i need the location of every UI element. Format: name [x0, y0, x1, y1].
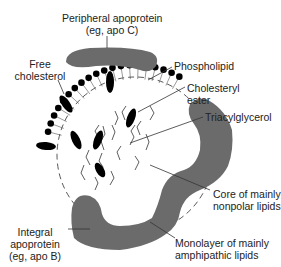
- label-free-cholesterol: Free cholesterol: [10, 58, 70, 82]
- label-line: (eg, apo B): [2, 250, 68, 262]
- label-line: Peripheral apoprotein: [62, 12, 162, 24]
- label-line: (eg, apo C): [62, 24, 162, 36]
- label-line: ester: [187, 94, 240, 106]
- label-core: Core of mainly nonpolar lipids: [213, 188, 281, 212]
- label-phospholipid: Phospholipid: [174, 60, 234, 72]
- label-triacylglycerol: Triacylglycerol: [205, 111, 272, 123]
- label-cholesteryl-ester: Cholesteryl ester: [187, 82, 240, 106]
- label-line: Triacylglycerol: [205, 111, 272, 123]
- core-lipids: [81, 106, 154, 190]
- label-line: nonpolar lipids: [213, 200, 281, 212]
- label-line: Integral: [2, 226, 68, 238]
- label-line: cholesterol: [10, 70, 70, 82]
- label-integral-apoprotein: Integral apoprotein (eg, apo B): [2, 226, 68, 262]
- label-line: Core of mainly: [213, 188, 281, 200]
- label-line: Phospholipid: [174, 60, 234, 72]
- label-line: amphipathic lipids: [175, 249, 269, 261]
- label-line: Cholesteryl: [187, 82, 240, 94]
- label-peripheral-apoprotein: Peripheral apoprotein (eg, apo C): [62, 12, 162, 36]
- label-line: Monolayer of mainly: [175, 237, 269, 249]
- label-line: Free: [10, 58, 70, 70]
- label-monolayer: Monolayer of mainly amphipathic lipids: [175, 237, 269, 261]
- label-line: apoprotein: [2, 238, 68, 250]
